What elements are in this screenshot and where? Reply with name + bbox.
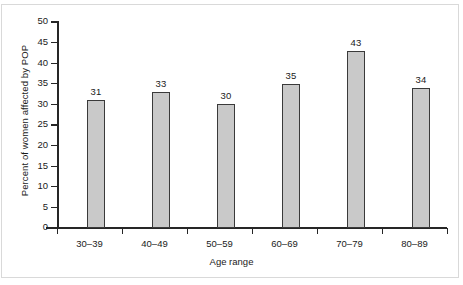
x-tick-mark: [382, 228, 383, 234]
x-category-label: 60–69: [255, 238, 315, 249]
y-tick-mark: [51, 42, 57, 43]
bar-chart-figure: Percent of women affected by POP 0510152…: [0, 0, 463, 285]
y-tick: 20: [51, 145, 57, 146]
x-category-label: 50–59: [190, 238, 250, 249]
y-tick-mark: [51, 186, 57, 187]
x-tick-mark: [252, 228, 253, 234]
y-tick: 35: [51, 83, 57, 84]
y-tick-label: 45: [37, 36, 48, 47]
x-category-label: 80–89: [385, 238, 445, 249]
x-axis-line: [46, 227, 447, 229]
y-tick: 40: [51, 63, 57, 64]
bar: [217, 104, 235, 228]
y-tick-mark: [51, 63, 57, 64]
y-tick-mark: [51, 124, 57, 125]
bar-value-label: 31: [76, 86, 116, 97]
y-tick: 50: [51, 21, 57, 22]
bar: [152, 92, 170, 228]
y-axis-line: [57, 21, 59, 229]
y-tick-mark: [51, 104, 57, 105]
y-tick-mark: [51, 145, 57, 146]
y-tick: 15: [51, 166, 57, 167]
y-tick-mark: [51, 21, 57, 22]
y-tick-mark: [51, 207, 57, 208]
bar-value-label: 43: [336, 37, 376, 48]
bar: [282, 84, 300, 228]
y-tick: 45: [51, 42, 57, 43]
x-tick-mark: [57, 228, 58, 234]
x-category-label: 70–79: [320, 238, 380, 249]
x-axis-title: Age range: [0, 256, 463, 267]
bar-value-label: 34: [401, 74, 441, 85]
y-tick-label: 35: [37, 77, 48, 88]
y-tick-label: 10: [37, 180, 48, 191]
y-tick-label: 50: [37, 15, 48, 26]
y-tick-label: 0: [43, 221, 48, 232]
bar-value-label: 30: [206, 90, 246, 101]
y-tick-label: 5: [43, 201, 48, 212]
x-category-label: 40–49: [125, 238, 185, 249]
bar-value-label: 33: [141, 78, 181, 89]
bar: [347, 51, 365, 228]
y-tick-label: 25: [37, 118, 48, 129]
x-tick-mark: [447, 228, 448, 234]
y-tick: 5: [51, 207, 57, 208]
y-tick-label: 15: [37, 160, 48, 171]
bar-value-label: 35: [271, 70, 311, 81]
y-axis-title: Percent of women affected by POP: [19, 21, 30, 221]
y-tick-mark: [51, 83, 57, 84]
y-tick: 25: [51, 124, 57, 125]
bar: [87, 100, 105, 228]
bar: [412, 88, 430, 228]
y-tick-label: 20: [37, 139, 48, 150]
x-tick-mark: [187, 228, 188, 234]
y-tick: 30: [51, 104, 57, 105]
x-category-label: 30–39: [60, 238, 120, 249]
x-tick-mark: [122, 228, 123, 234]
y-tick: 10: [51, 186, 57, 187]
y-tick-label: 30: [37, 98, 48, 109]
x-tick-mark: [317, 228, 318, 234]
y-tick-label: 40: [37, 57, 48, 68]
y-tick-mark: [51, 166, 57, 167]
